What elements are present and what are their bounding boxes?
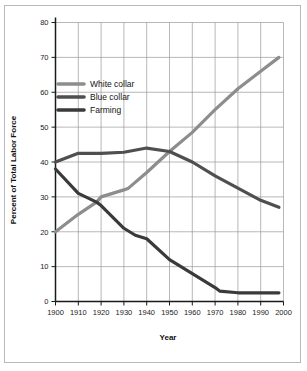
tick-label-layer: 0102030405060708019001910192019301940195… <box>40 18 292 316</box>
legend-label: Farming <box>90 105 121 115</box>
legend-layer[interactable]: White collarBlue collarFarming <box>58 79 135 115</box>
y-axis-tick-label: 30 <box>40 193 48 202</box>
y-axis-tick-label: 50 <box>40 123 48 132</box>
x-axis-tick-label: 2000 <box>275 308 292 317</box>
x-axis-tick-label: 1990 <box>252 308 269 317</box>
y-axis-tick-label: 60 <box>40 88 48 97</box>
x-axis-title: Year <box>160 333 177 342</box>
x-axis-tick-label: 1930 <box>116 308 133 317</box>
line-chart: 0102030405060708019001910192019301940195… <box>0 0 307 371</box>
y-axis-tick-label: 20 <box>40 228 48 237</box>
y-axis-tick-label: 40 <box>40 158 48 167</box>
x-axis-tick-label: 1940 <box>138 308 155 317</box>
x-axis-tick-label: 1920 <box>93 308 110 317</box>
y-axis-title: Percent of Total Labor Force <box>9 115 18 224</box>
legend-item-white-collar[interactable]: White collar <box>58 79 135 89</box>
legend-item-blue-collar[interactable]: Blue collar <box>58 92 130 102</box>
y-axis-tick-label: 80 <box>40 18 48 27</box>
y-axis-tick-label: 70 <box>40 53 48 62</box>
legend-label: White collar <box>90 79 135 89</box>
x-axis-tick-label: 1900 <box>47 308 64 317</box>
legend-label: Blue collar <box>90 92 130 102</box>
figure: 0102030405060708019001910192019301940195… <box>0 0 307 371</box>
series-line-farming <box>56 169 279 293</box>
y-axis-tick-label: 0 <box>44 297 48 306</box>
x-axis-tick-label: 1910 <box>70 308 87 317</box>
x-axis-tick-label: 1980 <box>230 308 247 317</box>
x-axis-tick-label: 1950 <box>161 308 178 317</box>
legend-item-farming[interactable]: Farming <box>58 105 121 115</box>
y-axis-tick-label: 10 <box>40 262 48 271</box>
x-axis-tick-label: 1960 <box>184 308 201 317</box>
x-axis-tick-label: 1970 <box>207 308 224 317</box>
axis-layer <box>52 18 284 306</box>
